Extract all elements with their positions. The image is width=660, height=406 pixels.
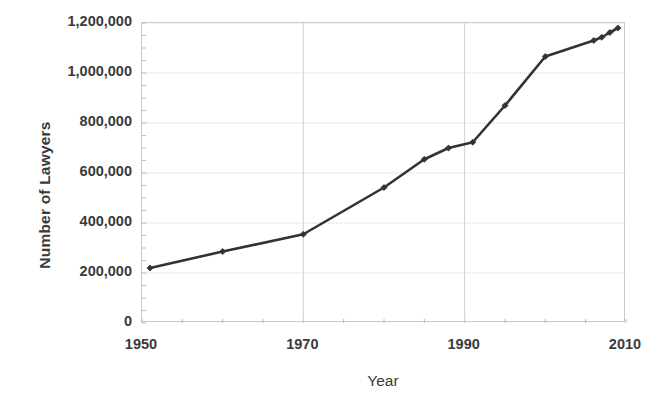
y-tick-label: 200,000 xyxy=(20,264,132,279)
x-tick-label: 1950 xyxy=(96,336,186,352)
y-axis-title: Number of Lawyers xyxy=(36,65,54,325)
data-series-layer xyxy=(147,25,621,271)
data-point-marker xyxy=(147,265,153,271)
x-tick-label: 1990 xyxy=(419,336,509,352)
x-axis-title: Year xyxy=(141,372,625,390)
y-tick-label: 400,000 xyxy=(20,214,132,229)
x-tick-label: 1970 xyxy=(257,336,347,352)
y-tick-label: 1,200,000 xyxy=(20,14,132,29)
y-tick-label: 0 xyxy=(20,314,132,329)
y-tick-label: 1,000,000 xyxy=(20,64,132,79)
y-tick-label: 600,000 xyxy=(20,164,132,179)
y-tick-label: 800,000 xyxy=(20,114,132,129)
horizontal-gridlines xyxy=(142,23,626,273)
x-minor-ticks xyxy=(142,319,626,323)
plot-area xyxy=(141,22,625,322)
x-tick-label: 2010 xyxy=(580,336,660,352)
plot-svg xyxy=(142,23,626,323)
data-point-marker xyxy=(220,248,226,254)
line-chart: Number of Lawyers 0200,000400,000600,000… xyxy=(0,0,660,406)
series-line xyxy=(150,28,618,268)
